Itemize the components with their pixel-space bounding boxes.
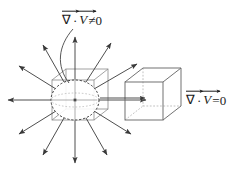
field-glyph: V (79, 13, 87, 26)
dot-operator: · (195, 94, 203, 107)
label-leader-curve (60, 29, 73, 83)
field-glyph: V (203, 93, 211, 106)
field-vector-symbol: V (203, 88, 211, 107)
nabla-glyph: ∇ (186, 93, 195, 106)
nabla-glyph: ∇ (62, 13, 71, 26)
divergence-zero-label: ∇ · V =0 (186, 88, 226, 107)
nabla-vector-symbol: ∇ (62, 8, 71, 27)
solenoidal-cube (125, 68, 181, 120)
field-vector-symbol: V (79, 8, 87, 27)
figure-canvas: ∇ · V ≠0 ∇ · (0, 0, 243, 178)
dot-operator: · (71, 14, 79, 27)
relation-not-equal-zero: ≠0 (87, 14, 102, 27)
divergence-nonzero-label: ∇ · V ≠0 (62, 8, 102, 27)
nabla-vector-symbol: ∇ (186, 88, 195, 107)
relation-equals-zero: =0 (211, 94, 226, 107)
